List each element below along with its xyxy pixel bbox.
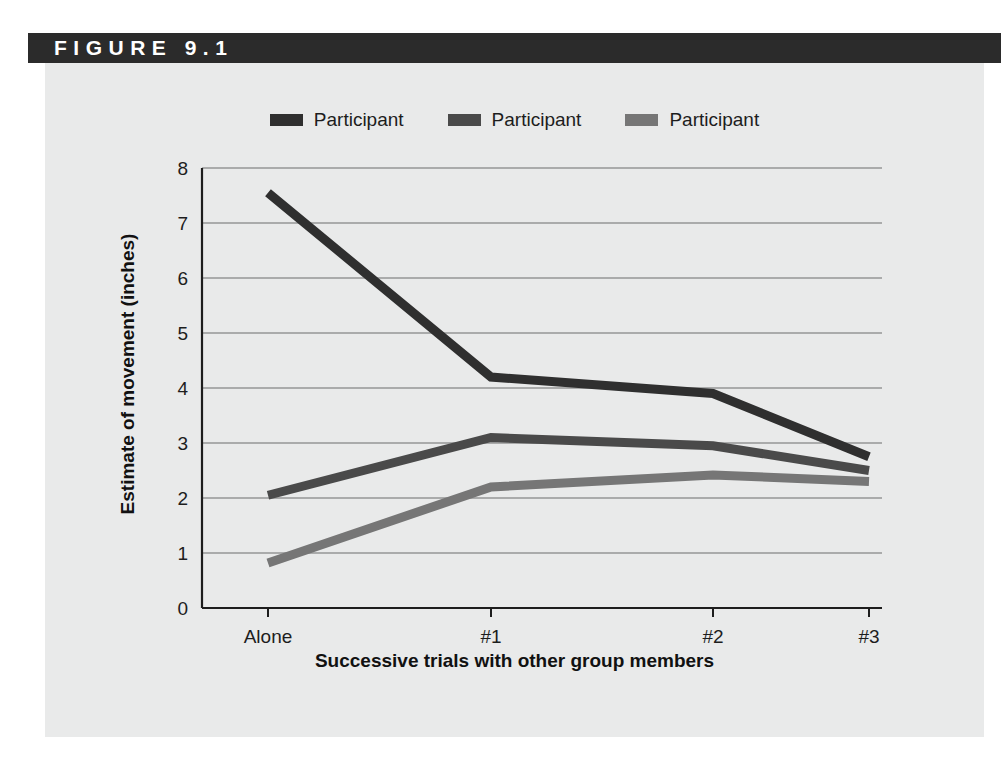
chart-panel: Participant Participant Participant 0123… [45, 63, 984, 737]
figure-header-bar: FIGURE 9.1 [28, 33, 1001, 63]
chart-svg: 012345678Alone#1#2#3 [45, 63, 984, 737]
x-axis-title: Successive trials with other group membe… [45, 650, 984, 672]
y-tick-label-0: 0 [177, 598, 188, 619]
x-tick-label-1: #1 [480, 626, 501, 647]
x-tick-label-3: #3 [858, 626, 879, 647]
x-tick-label-0: Alone [244, 626, 293, 647]
y-tick-label-8: 8 [177, 158, 188, 179]
y-tick-label-5: 5 [177, 323, 188, 344]
figure-number-label: FIGURE 9.1 [28, 36, 233, 60]
y-tick-label-2: 2 [177, 488, 188, 509]
plot-area: 012345678Alone#1#2#3 Estimate of movemen… [45, 63, 984, 737]
y-tick-label-7: 7 [177, 213, 188, 234]
y-tick-label-3: 3 [177, 433, 188, 454]
x-tick-label-2: #2 [702, 626, 723, 647]
y-tick-label-6: 6 [177, 268, 188, 289]
y-tick-label-4: 4 [177, 378, 188, 399]
y-axis-title: Estimate of movement (inches) [117, 214, 139, 534]
series-line-2[interactable] [268, 475, 869, 563]
series-line-0[interactable] [268, 193, 869, 457]
figure-root: FIGURE 9.1 Participant Participant Parti… [0, 0, 1001, 770]
y-tick-label-1: 1 [177, 543, 188, 564]
